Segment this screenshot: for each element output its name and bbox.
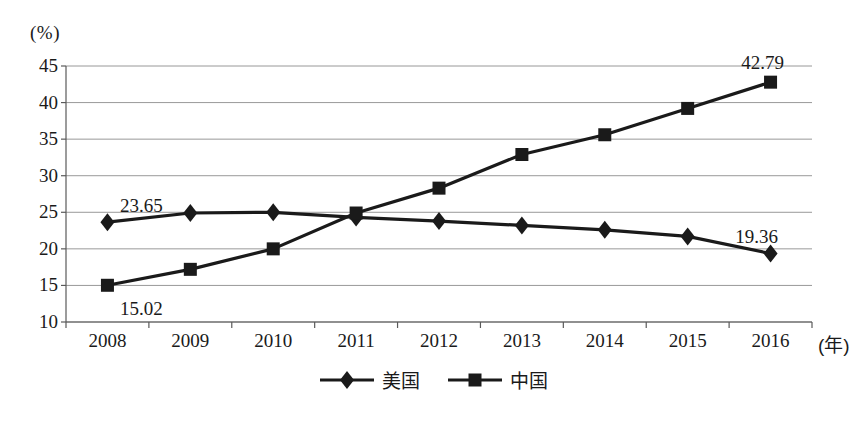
data-point-marker-square (433, 182, 446, 195)
data-series-layer (66, 66, 812, 322)
y-tick-label: 35 (39, 128, 58, 150)
x-tick-label: 2008 (88, 330, 126, 352)
data-point-marker-diamond (100, 213, 114, 231)
data-point-marker-square (469, 373, 482, 386)
x-tick-label: 2016 (752, 330, 790, 352)
x-tick-label: 2014 (586, 330, 624, 352)
data-label: 42.79 (741, 52, 784, 74)
data-label: 23.65 (120, 195, 163, 217)
x-axis-tick-labels: 200820092010201120122013201420152016 (66, 330, 812, 360)
series-usa (100, 203, 777, 262)
data-point-marker-square (515, 148, 528, 161)
data-point-marker-diamond (183, 204, 197, 222)
chart-figure: (%) 1015202530354045 23.6515.0242.7919.3… (0, 0, 866, 421)
legend-marker-square-icon (446, 370, 504, 390)
y-tick-label: 40 (39, 92, 58, 114)
x-axis-unit-label: (年) (818, 330, 850, 357)
legend-entry[interactable]: 美国 (318, 366, 420, 393)
data-point-marker-diamond (432, 212, 446, 230)
legend-label: 中国 (510, 366, 548, 393)
y-tick-label: 45 (39, 55, 58, 77)
y-axis-tick-labels: 1015202530354045 (0, 66, 58, 322)
chart-legend: 美国中国 (0, 366, 866, 393)
legend-label: 美国 (382, 366, 420, 393)
x-tick-label: 2011 (337, 330, 374, 352)
data-label: 15.02 (120, 298, 163, 320)
data-point-marker-diamond (515, 216, 529, 234)
data-point-marker-diamond (598, 221, 612, 239)
data-point-marker-square (267, 242, 280, 255)
data-point-marker-square (350, 207, 363, 220)
legend-marker-diamond-icon (318, 370, 376, 390)
data-point-marker-square (101, 279, 114, 292)
y-tick-label: 15 (39, 274, 58, 296)
y-tick-label: 20 (39, 238, 58, 260)
data-point-marker-diamond (340, 371, 354, 389)
data-point-marker-square (598, 128, 611, 141)
legend-entry[interactable]: 中国 (446, 366, 548, 393)
x-tick-label: 2009 (171, 330, 209, 352)
y-tick-label: 10 (39, 311, 58, 333)
data-point-marker-diamond (681, 227, 695, 245)
series-china (101, 76, 777, 292)
data-point-marker-square (184, 263, 197, 276)
y-tick-label: 30 (39, 165, 58, 187)
data-point-marker-square (764, 76, 777, 89)
plot-area (66, 66, 812, 322)
x-tick-label: 2010 (254, 330, 292, 352)
data-point-marker-diamond (266, 203, 280, 221)
data-point-marker-square (681, 102, 694, 115)
y-tick-label: 25 (39, 201, 58, 223)
x-tick-label: 2013 (503, 330, 541, 352)
y-axis-unit-label: (%) (30, 22, 60, 44)
x-tick-label: 2015 (669, 330, 707, 352)
data-label: 19.36 (735, 226, 778, 248)
x-tick-label: 2012 (420, 330, 458, 352)
